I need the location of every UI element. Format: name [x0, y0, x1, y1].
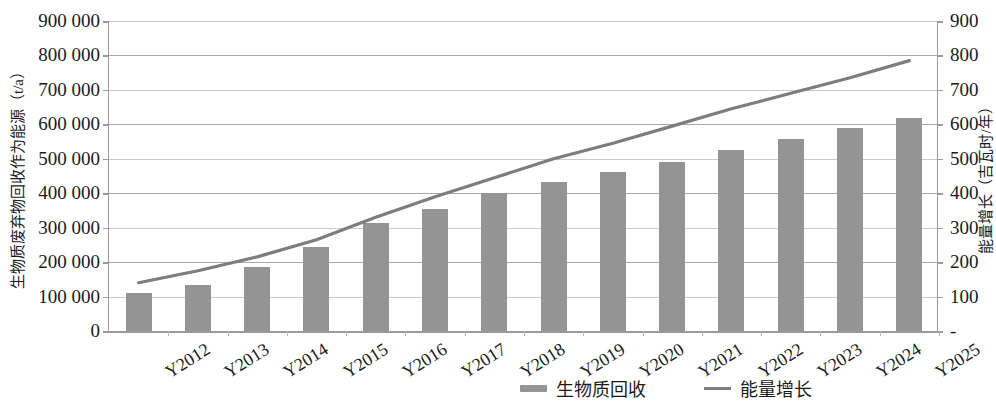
y-axis-left-title: 生物质废弃物回收作为能源（t/a）: [6, 27, 27, 327]
y-tick-label-left: 400 000: [38, 183, 100, 202]
y-tick-label-right: 700: [950, 80, 979, 99]
line-swatch-icon: [704, 387, 731, 390]
y-tick-label-left: 900 000: [38, 11, 100, 30]
y-tick-label-right: 900: [950, 11, 979, 30]
y-tick-label-right: 600: [950, 114, 979, 133]
x-axis-label: Y2016: [398, 339, 451, 383]
category-tickmark: [939, 331, 940, 336]
y-axis-right-title: 能量增长（吉瓦时/年）: [974, 27, 995, 327]
y-tick-label-left: 0: [91, 321, 101, 340]
y-tick-label-right: -: [950, 321, 956, 340]
x-axis-label: Y2017: [458, 339, 511, 383]
biomass-energy-chart: 生物质废弃物回收作为能源（t/a） 能量增长（吉瓦时/年） 0100 00020…: [0, 0, 996, 402]
y-tick-label-right: 100: [950, 287, 979, 306]
x-axis-label: Y2013: [220, 339, 273, 383]
energy-growth-line: [139, 61, 910, 283]
y-tick-label-left: 300 000: [38, 218, 100, 237]
line-series: [109, 21, 939, 331]
y-tick-label-right: 200: [950, 252, 979, 271]
y-tick-label-left: 800 000: [38, 45, 100, 64]
y-tick-label-left: 700 000: [38, 80, 100, 99]
plot-area: [108, 21, 938, 331]
y-tick-label-right: 300: [950, 218, 979, 237]
legend-label-energy: 能量增长: [740, 375, 812, 401]
legend-item-energy[interactable]: 能量增长: [704, 375, 812, 401]
x-axis-label: Y2012: [161, 339, 214, 383]
legend-item-biomass[interactable]: 生物质回收: [520, 375, 646, 401]
y-tick-label-left: 600 000: [38, 114, 100, 133]
y-tick-label-right: 500: [950, 149, 979, 168]
bar-swatch-icon: [520, 385, 547, 392]
y-tick-label-left: 100 000: [38, 287, 100, 306]
x-axis-label: Y2014: [280, 339, 333, 383]
chart-legend: 生物质回收 能量增长: [520, 376, 960, 400]
x-axis-label: Y2015: [339, 339, 392, 383]
y-tick-label-left: 500 000: [38, 149, 100, 168]
y-tick-label-left: 200 000: [38, 252, 100, 271]
y-tick-label-right: 800: [950, 45, 979, 64]
y-tick-label-right: 400: [950, 183, 979, 202]
legend-label-biomass: 生物质回收: [556, 375, 646, 401]
